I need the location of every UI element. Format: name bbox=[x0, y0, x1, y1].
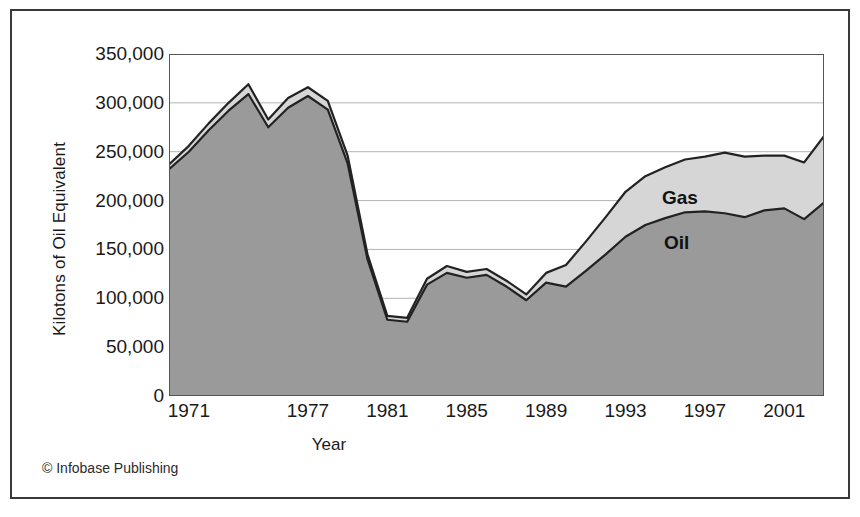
x-tick-label: 2001 bbox=[744, 400, 824, 422]
x-tick-label: 1971 bbox=[149, 400, 229, 422]
x-tick-label: 1993 bbox=[586, 400, 666, 422]
y-tick-label: 0 bbox=[44, 385, 164, 407]
area-chart-svg bbox=[169, 54, 824, 396]
x-tick-label: 1981 bbox=[347, 400, 427, 422]
y-tick-label: 50,000 bbox=[44, 336, 164, 358]
series-label-oil: Oil bbox=[664, 232, 689, 254]
y-tick-label: 200,000 bbox=[44, 190, 164, 212]
x-axis-tick-labels: 19711977198119851989199319972001 bbox=[169, 400, 824, 428]
x-tick-label: 1997 bbox=[665, 400, 745, 422]
y-tick-label: 300,000 bbox=[44, 92, 164, 114]
y-tick-label: 350,000 bbox=[44, 43, 164, 65]
plot-area: Gas Oil bbox=[169, 54, 824, 396]
y-tick-label: 100,000 bbox=[44, 287, 164, 309]
x-tick-label: 1977 bbox=[268, 400, 348, 422]
chart-figure: Kilotons of Oil Equivalent 0 50,000 100,… bbox=[0, 0, 860, 517]
y-tick-label: 150,000 bbox=[44, 238, 164, 260]
figure-frame: Kilotons of Oil Equivalent 0 50,000 100,… bbox=[10, 9, 850, 499]
x-axis-title: Year bbox=[169, 435, 489, 455]
y-tick-label: 250,000 bbox=[44, 141, 164, 163]
copyright-credit: © Infobase Publishing bbox=[42, 460, 178, 476]
series-label-gas: Gas bbox=[662, 187, 698, 209]
x-tick-label: 1989 bbox=[506, 400, 586, 422]
y-axis-tick-labels: 0 50,000 100,000 150,000 200,000 250,000… bbox=[36, 54, 164, 396]
x-tick-label: 1985 bbox=[427, 400, 507, 422]
